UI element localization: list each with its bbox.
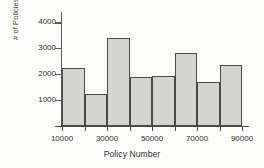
x-axis-tick-mark — [220, 126, 221, 131]
histogram-bar — [62, 68, 85, 126]
y-axis-tick-label: 4000 — [38, 18, 56, 26]
x-axis-tick-mark — [130, 126, 131, 131]
histogram-bar — [220, 65, 243, 126]
histogram-chart: # of Policies 1000200030004000 100003000… — [0, 0, 264, 168]
y-axis-tick-label: 3000 — [38, 44, 56, 52]
plot-area — [62, 12, 242, 126]
x-axis-title: Policy Number — [0, 149, 264, 159]
x-axis-tick-label: 70000 — [186, 134, 208, 143]
x-axis-tick-label: 30000 — [96, 134, 118, 143]
x-axis-tick-mark — [152, 126, 153, 131]
x-axis-tick-mark — [62, 126, 63, 131]
y-axis-tick-mark — [55, 74, 62, 75]
x-axis-tick-labels: 1000030000500007000090000 — [0, 134, 264, 148]
y-axis-tick-mark — [55, 48, 62, 49]
y-axis-tick-label: 2000 — [38, 70, 56, 78]
histogram-bar — [85, 94, 108, 126]
x-axis-tick-mark — [242, 126, 243, 131]
x-axis-tick-label: 90000 — [231, 134, 253, 143]
y-axis-tick-mark — [55, 100, 62, 101]
x-axis-tick-mark — [85, 126, 86, 131]
y-axis-tick-label: 1000 — [38, 96, 56, 104]
x-axis-tick-label: 50000 — [141, 134, 163, 143]
histogram-bar — [152, 76, 175, 126]
x-axis-tick-mark — [175, 126, 176, 131]
x-axis-tick-mark — [197, 126, 198, 131]
x-axis-tick-mark — [107, 126, 108, 131]
histogram-bar — [130, 77, 153, 126]
histogram-bar — [175, 53, 198, 126]
y-axis-title: # of Policies — [11, 0, 20, 40]
y-axis-tick-mark — [55, 22, 62, 23]
histogram-bar — [107, 38, 130, 126]
x-axis-tick-label: 10000 — [51, 134, 73, 143]
histogram-bar — [197, 82, 220, 126]
